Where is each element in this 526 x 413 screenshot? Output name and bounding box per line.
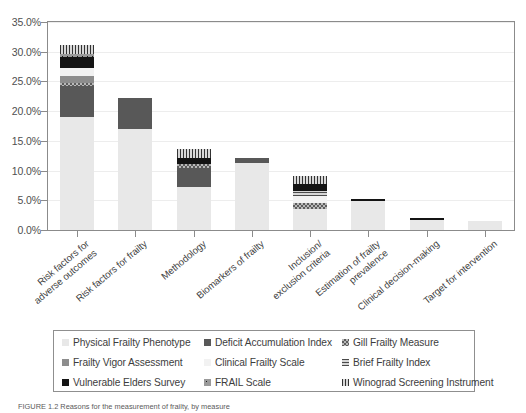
legend-item-bfi[interactable]: Brief Frailty Index: [342, 352, 430, 372]
bar-slot: [456, 22, 514, 230]
bar-segment-cfs[interactable]: [60, 68, 94, 76]
legend-label: FRAIL Scale: [215, 377, 271, 388]
bar-segment-wsi[interactable]: [60, 45, 94, 53]
legend-item-ves[interactable]: Vulnerable Elders Survey: [62, 372, 185, 392]
legend-label: Frailty Vigor Assessment: [73, 357, 183, 368]
y-axis-tick-label: 20.0%: [12, 105, 41, 117]
legend-swatch-dai: [204, 339, 211, 346]
bar-segment-fva[interactable]: [60, 76, 94, 83]
bar-stack[interactable]: [60, 45, 94, 230]
bar-stack[interactable]: [293, 176, 327, 230]
y-axis-tick-label: 25.0%: [12, 75, 41, 87]
y-axis-tick-label: 15.0%: [12, 135, 41, 147]
legend-swatch-ves: [62, 379, 69, 386]
legend-item-gfm[interactable]: Gill Frailty Measure: [342, 332, 439, 352]
bars-layer: [48, 22, 514, 230]
legend-swatch-bfi: [342, 359, 349, 366]
bar-segment-pfp[interactable]: [235, 163, 269, 230]
bar-segment-pfp[interactable]: [410, 220, 444, 230]
legend-label: Clinical Frailty Scale: [215, 357, 305, 368]
legend-swatch-cfs: [204, 359, 211, 366]
bar-segment-ves[interactable]: [293, 184, 327, 192]
bar-segment-pfp[interactable]: [118, 129, 152, 230]
chart-legend: Physical Frailty PhenotypeDeficit Accumu…: [53, 330, 475, 392]
bar-slot: [48, 22, 106, 230]
bar-stack[interactable]: [468, 221, 502, 230]
bar-slot: [223, 22, 281, 230]
bar-segment-pfp[interactable]: [60, 117, 94, 230]
legend-label: Winograd Screening Instrument: [353, 377, 493, 388]
x-axis-label: Methodology: [86, 238, 208, 343]
legend-label: Brief Frailty Index: [353, 357, 430, 368]
bar-segment-cfs[interactable]: [293, 196, 327, 203]
bar-stack[interactable]: [118, 98, 152, 231]
legend-item-wsi[interactable]: Winograd Screening Instrument: [342, 372, 493, 392]
bar-slot: [398, 22, 456, 230]
legend-label: Vulnerable Elders Survey: [73, 377, 185, 388]
x-axis-label: Target for intervention: [377, 238, 499, 343]
bar-stack[interactable]: [235, 158, 269, 230]
legend-item-pfp[interactable]: Physical Frailty Phenotype: [62, 332, 190, 352]
legend-swatch-frail: [204, 379, 211, 386]
bar-slot: [165, 22, 223, 230]
legend-swatch-gfm: [342, 339, 349, 346]
bar-segment-pfp[interactable]: [293, 209, 327, 230]
figure-caption: FIGURE 1.2 Reasons for the measurement o…: [18, 402, 518, 413]
bar-slot: [106, 22, 164, 230]
y-axis-tick-label: 35.0%: [12, 16, 41, 28]
bar-segment-dai[interactable]: [60, 86, 94, 117]
legend-label: Physical Frailty Phenotype: [73, 337, 190, 348]
legend-item-frail[interactable]: FRAIL Scale: [204, 372, 271, 392]
figure-container: 0.0%5.0%10.0%15.0%20.0%25.0%30.0%35.0% R…: [0, 0, 526, 413]
bar-stack[interactable]: [351, 199, 385, 230]
bar-segment-wsi[interactable]: [177, 149, 211, 159]
legend-swatch-fva: [62, 359, 69, 366]
bar-segment-pfp[interactable]: [468, 221, 502, 230]
y-axis-tick-label: 30.0%: [12, 46, 41, 58]
bar-stack[interactable]: [410, 218, 444, 230]
bar-segment-ves[interactable]: [60, 57, 94, 68]
bar-slot: [281, 22, 339, 230]
bar-segment-dai[interactable]: [177, 168, 211, 187]
x-axis-label: Biomarkers of frailty: [144, 238, 266, 343]
legend-swatch-wsi: [342, 379, 349, 386]
bar-stack[interactable]: [177, 149, 211, 230]
y-axis: 0.0%5.0%10.0%15.0%20.0%25.0%30.0%35.0%: [0, 21, 41, 231]
legend-item-fva[interactable]: Frailty Vigor Assessment: [62, 352, 183, 372]
bar-slot: [339, 22, 397, 230]
legend-label: Deficit Accumulation Index: [215, 337, 332, 348]
bar-segment-dai[interactable]: [118, 98, 152, 129]
y-axis-tick-label: 5.0%: [17, 194, 41, 206]
bar-segment-pfp[interactable]: [351, 201, 385, 230]
legend-item-cfs[interactable]: Clinical Frailty Scale: [204, 352, 305, 372]
legend-swatch-pfp: [62, 339, 69, 346]
bar-segment-wsi[interactable]: [293, 176, 327, 184]
x-axis-labels: Risk factors for adverse outcomesRisk fa…: [0, 231, 526, 326]
bar-segment-pfp[interactable]: [177, 187, 211, 230]
y-axis-tick-label: 10.0%: [12, 165, 41, 177]
legend-item-dai[interactable]: Deficit Accumulation Index: [204, 332, 332, 352]
legend-label: Gill Frailty Measure: [353, 337, 439, 348]
